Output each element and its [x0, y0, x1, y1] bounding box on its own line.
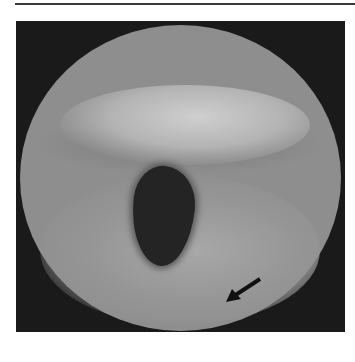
arrow-icon: [224, 276, 264, 306]
upper-fold-highlight: [60, 85, 310, 165]
scope-circle-view: [20, 25, 341, 331]
top-rule: [15, 3, 355, 5]
endoscopic-photo: [16, 21, 345, 332]
